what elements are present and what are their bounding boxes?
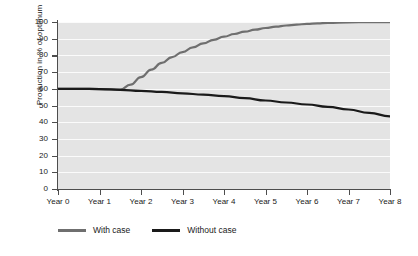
legend-item[interactable]: With case [58,226,130,235]
y-tick-label: 20 [22,152,48,160]
y-tick-mark [52,106,57,107]
y-tick-label: 10 [22,168,48,176]
x-tick-label: Year 5 [243,197,289,206]
y-tick-label: 90 [22,35,48,43]
legend-swatch-icon [58,229,86,232]
x-tick-mark [266,190,267,195]
legend-item[interactable]: Without case [152,226,236,235]
y-tick-mark [52,122,57,123]
x-tick-label: Year 8 [367,197,413,206]
x-tick-label: Year 3 [160,197,206,206]
x-tick-mark [183,190,184,195]
series-line-with-case [58,22,390,89]
x-tick-mark [224,190,225,195]
y-tick-mark [52,189,57,190]
y-tick-mark [52,172,57,173]
y-tick-mark [52,55,57,56]
x-tick-label: Year 1 [77,197,123,206]
x-tick-label: Year 7 [326,197,372,206]
chart-legend: With caseWithout case [58,226,236,235]
x-tick-label: Year 0 [35,197,81,206]
x-tick-mark [307,190,308,195]
legend-label: With case [93,226,130,235]
x-tick-label: Year 6 [284,197,330,206]
y-tick-label: 60 [22,85,48,93]
y-tick-label: 100 [22,18,48,26]
y-tick-label: 40 [22,118,48,126]
series-layer [58,22,390,189]
y-tick-mark [52,39,57,40]
legend-swatch-icon [152,229,180,232]
x-tick-mark [141,190,142,195]
y-tick-mark [52,89,57,90]
production-line-chart: Production in % of optimum 0102030405060… [0,0,418,256]
y-tick-label: 50 [22,102,48,110]
x-tick-mark [58,190,59,195]
x-tick-mark [349,190,350,195]
series-line-without-case [58,89,390,117]
y-tick-mark [52,72,57,73]
x-tick-label: Year 2 [118,197,164,206]
x-tick-label: Year 4 [201,197,247,206]
x-tick-mark [390,190,391,195]
legend-label: Without case [187,226,236,235]
y-tick-label: 70 [22,68,48,76]
x-tick-mark [100,190,101,195]
y-tick-mark [52,22,57,23]
y-tick-mark [52,139,57,140]
y-tick-label: 80 [22,51,48,59]
y-tick-label: 30 [22,135,48,143]
y-tick-mark [52,156,57,157]
y-tick-label: 0 [22,185,48,193]
